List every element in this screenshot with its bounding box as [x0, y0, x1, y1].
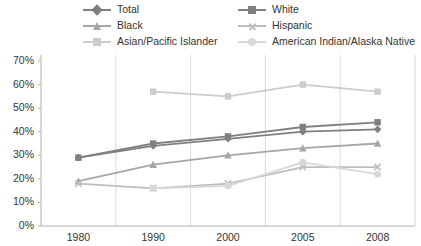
legend-label-hispanic: Hispanic	[272, 20, 312, 31]
plot-area: 70%60%50%40%30%20%10%0% 1980199020002005…	[0, 50, 421, 246]
line-chart: Total White Black Hispanic	[0, 0, 421, 246]
data-point-white	[75, 154, 81, 160]
legend-item-total[interactable]: Total	[83, 2, 139, 17]
y-axis-tick-label: 70%	[2, 55, 34, 66]
data-point-asian-pacific-islander	[225, 93, 231, 99]
x-axis-tick-label: 1980	[48, 232, 108, 243]
legend-item-black[interactable]: Black	[83, 18, 143, 33]
legend-item-asian-pacific-islander[interactable]: Asian/Pacific Islander	[83, 34, 217, 49]
x-axis-tick-label: 2008	[348, 232, 408, 243]
data-point-white	[300, 124, 306, 130]
legend-label-american-indian-alaska-native: American Indian/Alaska Native	[272, 36, 415, 47]
x-axis-tick-label: 2005	[273, 232, 333, 243]
legend-swatch-asian-pacific-islander-icon	[83, 36, 111, 47]
y-axis-tick-label: 20%	[2, 173, 34, 184]
y-axis-tick-label: 40%	[2, 126, 34, 137]
y-axis-tick-label: 60%	[2, 79, 34, 90]
y-axis-tick-label: 0%	[2, 220, 34, 231]
plot-svg	[0, 50, 421, 246]
x-axis-tick-label: 2000	[198, 232, 258, 243]
legend-label-black: Black	[117, 20, 143, 31]
data-point-asian-pacific-islander	[374, 88, 380, 94]
legend-label-total: Total	[117, 4, 139, 15]
data-point-american-indian-alaska-native	[225, 182, 232, 189]
circle-marker-icon	[248, 38, 256, 46]
legend-swatch-american-indian-alaska-native-icon	[238, 36, 266, 47]
legend-label-asian-pacific-islander: Asian/Pacific Islander	[117, 36, 217, 47]
legend-item-hispanic[interactable]: Hispanic	[238, 18, 312, 33]
chart-legend: Total White Black Hispanic	[83, 2, 413, 50]
data-point-asian-pacific-islander	[300, 81, 306, 87]
legend-swatch-white-icon	[238, 4, 266, 15]
data-point-white	[150, 140, 156, 146]
y-axis-tick-label: 10%	[2, 196, 34, 207]
x-marker-icon	[248, 22, 256, 30]
y-axis-tick-label: 50%	[2, 102, 34, 113]
data-point-white	[374, 119, 380, 125]
legend-swatch-hispanic-icon	[238, 20, 266, 31]
legend-label-white: White	[272, 4, 299, 15]
y-axis-tick-label: 30%	[2, 149, 34, 160]
triangle-marker-icon	[93, 22, 101, 30]
legend-item-american-indian-alaska-native[interactable]: American Indian/Alaska Native	[238, 34, 415, 49]
data-point-white	[225, 133, 231, 139]
data-point-american-indian-alaska-native	[150, 185, 157, 192]
data-point-american-indian-alaska-native	[299, 159, 306, 166]
legend-swatch-total-icon	[83, 4, 111, 15]
data-point-total	[374, 126, 382, 134]
legend-swatch-black-icon	[83, 20, 111, 31]
diamond-marker-icon	[91, 4, 102, 15]
data-point-asian-pacific-islander	[150, 88, 156, 94]
data-point-american-indian-alaska-native	[374, 171, 381, 178]
square-marker-icon	[248, 6, 256, 14]
dash-marker-icon	[93, 38, 101, 46]
x-axis-tick-label: 1990	[123, 232, 183, 243]
legend-item-white[interactable]: White	[238, 2, 299, 17]
